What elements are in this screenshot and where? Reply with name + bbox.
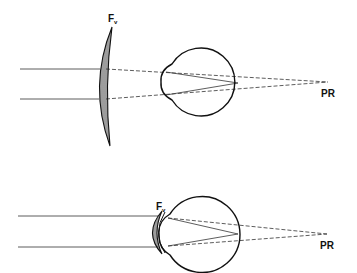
contact-lens: [153, 211, 163, 254]
far-point-text: PR: [320, 240, 334, 251]
lens-label-sub: v: [162, 207, 165, 213]
refracted-ray-top: [168, 218, 238, 234]
refracted-ray-bottom: [168, 234, 238, 246]
lens-label-bottom: Fv: [156, 202, 165, 215]
virtual-ray-bottom: [106, 82, 328, 99]
far-point-label-bottom: PR: [320, 241, 334, 251]
far-point-text: PR: [321, 88, 335, 99]
virtual-ray-top: [168, 218, 327, 234]
virtual-ray-bottom: [168, 234, 327, 246]
eye-globe: [159, 197, 240, 273]
lens-label-sub: v: [114, 19, 117, 25]
optics-figure: [0, 0, 357, 273]
myopia-correction-diagram: Fv PR Fv PR: [0, 0, 357, 273]
far-point-label-top: PR: [321, 89, 335, 99]
panel-spectacle-lens: [20, 27, 328, 146]
refracted-ray-bottom: [166, 83, 238, 95]
spectacle-lens: [99, 27, 112, 146]
eye-globe: [161, 48, 235, 116]
lens-label-top: Fv: [108, 14, 117, 27]
refracted-ray-top: [166, 72, 238, 83]
panel-contact-lens: [18, 197, 327, 273]
